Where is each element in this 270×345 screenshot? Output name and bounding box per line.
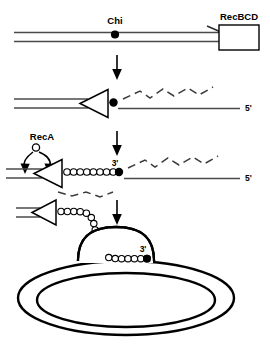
panel-1-duplex-dna-with-recbcd: Chi RecBCD — [14, 11, 259, 50]
recbcd-box — [219, 25, 259, 50]
curved-arrow-left — [21, 152, 34, 174]
chi-dot — [111, 30, 119, 38]
chi-dot — [109, 98, 117, 106]
three-prime-dot — [115, 168, 123, 176]
reca-circle — [32, 144, 39, 151]
chi-label: Chi — [107, 15, 122, 26]
five-prime-label: 5' — [245, 103, 252, 113]
recbcd-label: RecBCD — [220, 11, 258, 22]
figure-canvas: Chi RecBCD 5' RecA — [0, 0, 270, 345]
step-arrow-3-to-4 — [112, 200, 122, 225]
pathway-diagram: Chi RecBCD 5' RecA — [0, 0, 270, 345]
dashed-zigzag-strand — [128, 156, 218, 168]
recbcd-triangle — [80, 90, 108, 118]
three-prime-label: 3' — [112, 158, 119, 168]
reca-filament — [64, 169, 117, 176]
recbcd-triangle — [32, 200, 56, 225]
three-prime-dot-overlay — [143, 255, 151, 263]
duplex-dna — [14, 99, 88, 108]
reca-label: RecA — [30, 131, 54, 142]
five-prime-label: 5' — [245, 173, 252, 183]
dashed-zigzag-strand — [123, 87, 213, 99]
panel-4-d-loop-strand-invasion: 3' — [16, 200, 234, 335]
dashed-strand-lower — [58, 192, 113, 197]
panel-3-reca-loading: RecA 3' — [6, 131, 252, 197]
step-arrow-2-to-3 — [112, 131, 122, 156]
three-prime-label: 3' — [140, 244, 147, 254]
panel-2-recbcd-unwinding: 5' — [14, 87, 252, 118]
step-arrow-1-to-2 — [112, 55, 122, 80]
circular-dna — [18, 261, 234, 335]
